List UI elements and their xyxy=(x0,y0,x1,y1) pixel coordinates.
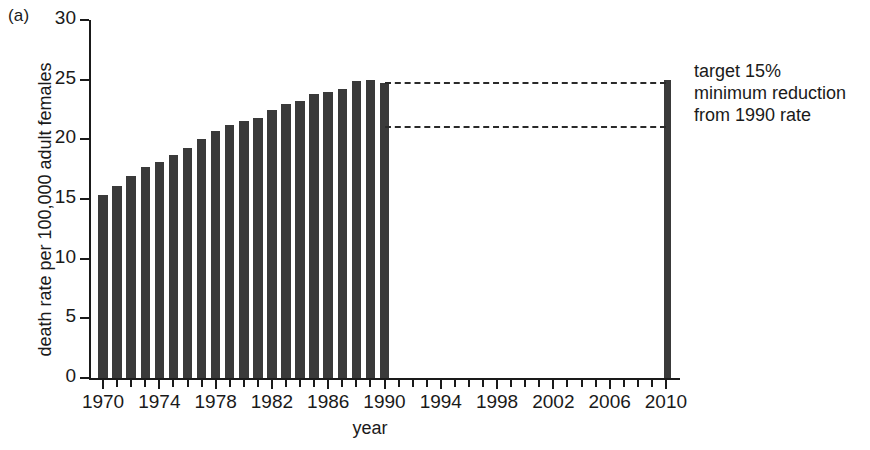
x-tick-minor xyxy=(398,378,400,387)
x-tick-minor xyxy=(144,378,146,387)
x-tick-minor xyxy=(566,378,568,387)
x-tick-minor xyxy=(243,378,245,387)
bar xyxy=(664,80,671,378)
x-tick-minor xyxy=(637,378,639,387)
x-tick-major xyxy=(158,378,160,389)
bar xyxy=(197,139,207,378)
x-tick-minor xyxy=(285,378,287,387)
bar xyxy=(98,195,108,378)
x-tick-label: 2002 xyxy=(532,391,574,413)
bar xyxy=(253,118,263,378)
x-tick-minor xyxy=(595,378,597,387)
x-tick-label: 1986 xyxy=(307,391,349,413)
bar xyxy=(352,81,362,378)
bar xyxy=(126,176,136,378)
x-tick-label: 1998 xyxy=(476,391,518,413)
x-tick-major xyxy=(384,378,386,389)
bar xyxy=(323,92,333,378)
x-tick-minor xyxy=(538,378,540,387)
x-axis-title-text: year xyxy=(352,418,387,439)
x-tick-minor xyxy=(510,378,512,387)
x-tick-minor xyxy=(313,378,315,387)
x-tick-major xyxy=(609,378,611,389)
bar xyxy=(295,101,305,378)
bar xyxy=(169,155,179,378)
x-tick-major xyxy=(271,378,273,389)
x-tick-label: 1990 xyxy=(363,391,405,413)
y-tick: 15 xyxy=(80,198,89,200)
x-tick-minor xyxy=(623,378,625,387)
x-tick-label: 2006 xyxy=(589,391,631,413)
y-tick: 30 xyxy=(80,19,89,21)
bar xyxy=(141,167,151,378)
bar xyxy=(155,162,165,378)
y-tick: 25 xyxy=(80,79,89,81)
y-tick: 5 xyxy=(80,317,89,319)
x-tick-minor xyxy=(355,378,357,387)
y-tick-label: 5 xyxy=(65,305,76,327)
x-tick-label: 1978 xyxy=(195,391,237,413)
x-tick-major xyxy=(552,378,554,389)
bar xyxy=(366,80,376,378)
annotation-line-1: target 15% xyxy=(694,60,846,82)
bar xyxy=(225,125,235,378)
x-tick-minor xyxy=(426,378,428,387)
bar xyxy=(239,121,249,378)
x-tick-minor xyxy=(412,378,414,387)
y-tick-label: 0 xyxy=(65,365,76,387)
x-tick-minor xyxy=(369,378,371,387)
y-tick-label: 15 xyxy=(55,186,76,208)
x-tick-minor xyxy=(229,378,231,387)
x-tick-minor xyxy=(651,378,653,387)
y-tick: 20 xyxy=(80,138,89,140)
bar xyxy=(309,94,319,378)
target-annotation: target 15% minimum reduction from 1990 r… xyxy=(694,60,846,126)
x-tick-minor xyxy=(468,378,470,387)
y-tick-label: 30 xyxy=(55,7,76,29)
x-tick-label: 1982 xyxy=(251,391,293,413)
x-tick-major xyxy=(440,378,442,389)
annotation-line-2: minimum reduction xyxy=(694,82,846,104)
y-tick-label: 20 xyxy=(55,126,76,148)
x-tick-minor xyxy=(130,378,132,387)
x-tick-minor xyxy=(524,378,526,387)
x-tick-label: 1974 xyxy=(138,391,180,413)
x-tick-major xyxy=(215,378,217,389)
bar xyxy=(338,89,348,378)
x-tick-major xyxy=(327,378,329,389)
x-tick-major xyxy=(496,378,498,389)
x-tick-minor xyxy=(257,378,259,387)
y-axis-title: death rate per 100,000 adult females xyxy=(35,15,56,405)
x-tick-minor xyxy=(116,378,118,387)
x-tick-minor xyxy=(454,378,456,387)
y-tick: 0 xyxy=(80,377,89,379)
x-tick-label: 1994 xyxy=(420,391,462,413)
bar xyxy=(211,131,221,378)
y-tick-label: 10 xyxy=(55,246,76,268)
x-tick-minor xyxy=(482,378,484,387)
x-tick-minor xyxy=(172,378,174,387)
y-axis-line xyxy=(89,20,91,378)
x-tick-label: 1970 xyxy=(82,391,124,413)
bar xyxy=(267,110,277,379)
target-15pct-line xyxy=(385,126,666,128)
x-tick-label: 2010 xyxy=(645,391,687,413)
x-tick-major xyxy=(102,378,104,389)
y-tick-label: 25 xyxy=(55,67,76,89)
panel-label: (a) xyxy=(8,6,29,26)
bar xyxy=(281,104,291,378)
x-tick-major xyxy=(665,378,667,389)
annotation-line-3: from 1990 rate xyxy=(694,104,846,126)
rate-1990-line xyxy=(385,82,666,84)
x-tick-minor xyxy=(581,378,583,387)
chart-figure: (a) death rate per 100,000 adult females… xyxy=(0,0,870,450)
x-tick-minor xyxy=(299,378,301,387)
x-tick-minor xyxy=(341,378,343,387)
x-tick-minor xyxy=(201,378,203,387)
bar xyxy=(183,148,193,378)
x-tick-minor xyxy=(187,378,189,387)
bar xyxy=(112,186,122,378)
plot-area: 051015202530 197019741978198219861990199… xyxy=(89,20,680,378)
y-tick: 10 xyxy=(80,258,89,260)
